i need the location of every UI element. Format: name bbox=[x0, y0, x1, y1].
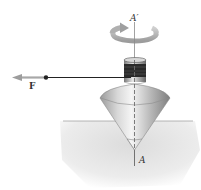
force-arrowhead-icon bbox=[12, 74, 22, 81]
spinning-top-diagram: A′ A F bbox=[0, 0, 201, 190]
string-attachment-dot bbox=[44, 75, 48, 79]
force-string bbox=[12, 74, 131, 81]
axis-bottom-label: A bbox=[138, 155, 146, 165]
axis-top-label: A′ bbox=[129, 13, 139, 23]
force-label: F bbox=[29, 81, 36, 91]
top-spool bbox=[124, 58, 146, 85]
